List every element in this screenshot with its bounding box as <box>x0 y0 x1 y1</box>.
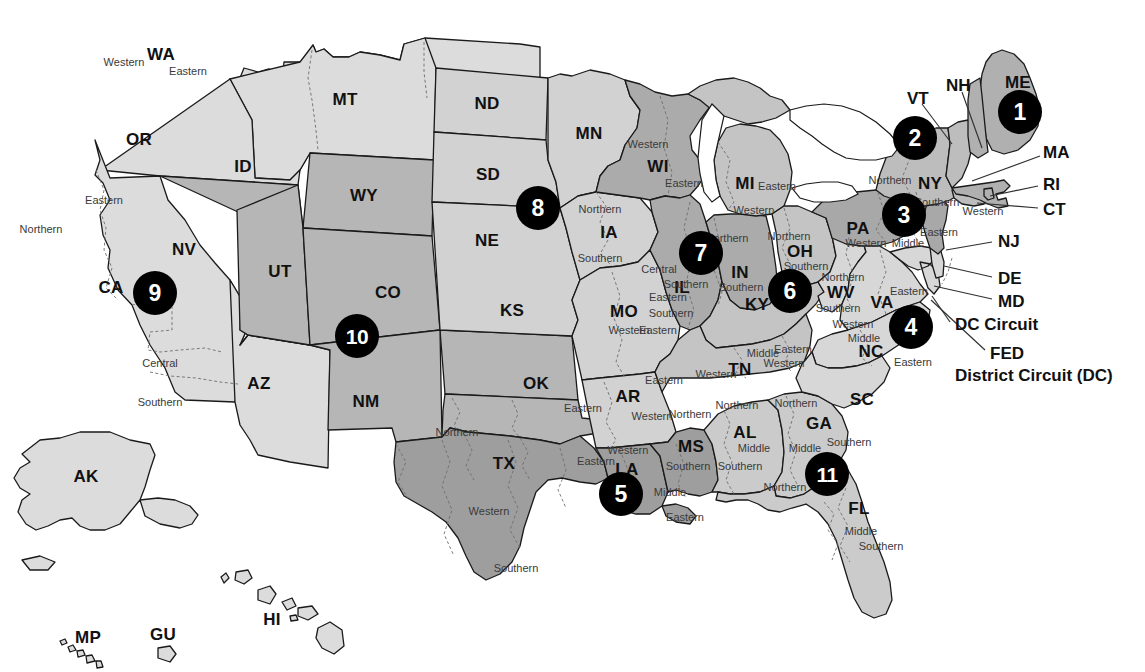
circuit-badge-8[interactable]: 8 <box>516 186 560 230</box>
state-ak[interactable] <box>14 432 198 570</box>
state-wy[interactable] <box>303 153 434 236</box>
circuit-badge-10[interactable]: 10 <box>335 314 379 358</box>
state-ut2[interactable] <box>237 185 310 345</box>
circuit-badge-9[interactable]: 9 <box>133 271 177 315</box>
circuit-5-states <box>394 428 718 580</box>
state-nd[interactable] <box>434 68 548 140</box>
state-tx[interactable] <box>394 428 608 580</box>
state-ri[interactable] <box>984 188 994 200</box>
circuit-badge-11[interactable]: 11 <box>805 452 849 496</box>
state-mi-low[interactable] <box>714 124 792 216</box>
state-ne[interactable] <box>432 202 580 336</box>
lake-erie <box>792 182 858 202</box>
state-ks[interactable] <box>440 330 578 400</box>
circuit-badge-6[interactable]: 6 <box>768 269 812 313</box>
circuit-badge-3[interactable]: 3 <box>882 193 926 237</box>
circuit-badge-1[interactable]: 1 <box>998 90 1042 134</box>
map-graphic <box>0 0 1145 672</box>
circuit-badge-7[interactable]: 7 <box>679 231 723 275</box>
territory-mp[interactable] <box>60 639 103 668</box>
state-hi[interactable] <box>221 570 344 654</box>
circuit-badge-4[interactable]: 4 <box>889 305 933 349</box>
circuit-badge-2[interactable]: 2 <box>893 116 937 160</box>
circuit-badge-5[interactable]: 5 <box>599 472 643 516</box>
circuit-11-states <box>704 392 892 618</box>
territory-gu[interactable] <box>158 646 176 662</box>
us-judicial-circuits-map: WAORIDMTNDMNSDWYNEIAWIMINVUTCOKSMOILINOH… <box>0 0 1145 672</box>
lake-superior-erie-huron <box>790 104 900 160</box>
